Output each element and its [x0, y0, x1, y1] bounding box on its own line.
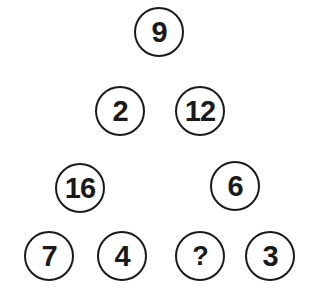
node-value-left-parent: 16: [65, 174, 95, 203]
node-value-bottom-4: 3: [262, 242, 277, 271]
node-value-bottom-1: 7: [41, 242, 56, 271]
node-value-mid-right: 12: [185, 97, 215, 126]
node-value-top: 9: [151, 18, 166, 47]
node-value-mid-left: 2: [112, 97, 127, 126]
circle-left-parent: 16: [55, 163, 105, 213]
circle-bottom-2: 4: [97, 231, 147, 281]
circle-bottom-1: 7: [24, 231, 74, 281]
circle-mid-left: 2: [95, 86, 145, 136]
node-value-right-parent: 6: [227, 172, 242, 201]
circle-mid-right: 12: [175, 86, 225, 136]
circle-right-parent: 6: [210, 161, 260, 211]
circle-top: 9: [134, 7, 184, 57]
circle-bottom-4: 3: [245, 231, 295, 281]
number-puzzle: 9 2 12 16 6 7 4 ? 3: [0, 0, 311, 299]
question-mark: ?: [192, 243, 208, 270]
circle-unknown: ?: [175, 231, 225, 281]
node-value-bottom-2: 4: [114, 242, 129, 271]
